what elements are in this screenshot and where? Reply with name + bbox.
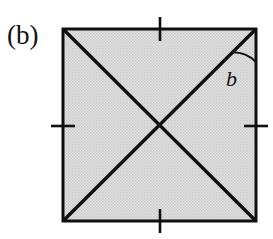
angle-label-b: b bbox=[226, 66, 237, 91]
figure-panel: (b) b bbox=[0, 0, 273, 239]
square-diagonals-diagram: b bbox=[0, 0, 273, 239]
